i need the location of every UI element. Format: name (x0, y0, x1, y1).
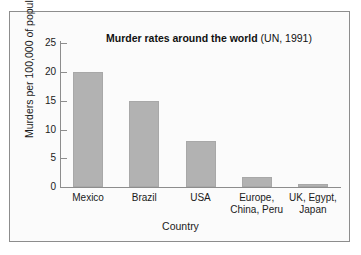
y-tick-25 (61, 43, 67, 44)
y-tick-0 (61, 187, 67, 188)
chart-title-source: (UN, 1991) (258, 32, 312, 44)
bar-brazil[interactable] (129, 101, 159, 187)
chart-figure: Murder rates around the world (UN, 1991)… (9, 11, 350, 242)
y-tick-20 (61, 72, 67, 73)
chart-title: Murder rates around the world (UN, 1991) (106, 32, 312, 44)
y-tick-label-0: 0 (30, 182, 56, 192)
x-tick-label-uk-egypt-japan: UK, Egypt, Japan (280, 192, 346, 216)
y-tick-15 (61, 101, 67, 102)
x-axis-line (60, 187, 341, 188)
y-axis-line (60, 41, 61, 188)
plot-area: Murder rates around the world (UN, 1991)… (10, 12, 351, 243)
bar-europe-china-peru[interactable] (242, 177, 272, 187)
y-tick-label-10: 10 (30, 125, 56, 135)
y-tick-label-20: 20 (30, 67, 56, 77)
bar-uk-egypt-japan[interactable] (298, 184, 328, 187)
bar-mexico[interactable] (73, 72, 103, 187)
y-tick-label-25: 25 (30, 38, 56, 48)
y-tick-10 (61, 130, 67, 131)
y-tick-label-5: 5 (30, 153, 56, 163)
x-axis-title: Country (10, 220, 351, 232)
chart-title-main: Murder rates around the world (106, 32, 258, 44)
bar-usa[interactable] (186, 141, 216, 187)
y-tick-label-15: 15 (30, 96, 56, 106)
y-tick-5 (61, 158, 67, 159)
